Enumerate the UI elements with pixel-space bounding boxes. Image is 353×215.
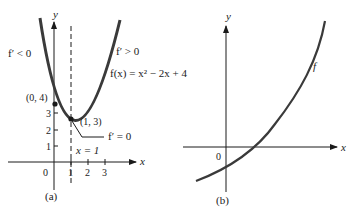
x-tick-2: 2 bbox=[85, 167, 90, 178]
caption-a: (a) bbox=[45, 190, 58, 203]
line-label: x = 1 bbox=[75, 144, 99, 156]
origin-b: 0 bbox=[216, 151, 221, 162]
curve-label-b: f bbox=[313, 60, 318, 72]
vertex-label: (1, 3) bbox=[80, 116, 102, 128]
y-tick-3: 3 bbox=[46, 108, 51, 119]
function-label: f(x) = x² − 2x + 4 bbox=[110, 67, 187, 80]
intercept-label: (0, 4) bbox=[26, 92, 48, 104]
x-label-b: x bbox=[340, 141, 346, 153]
y-label-a: y bbox=[52, 8, 58, 20]
y-label-b: y bbox=[225, 10, 231, 22]
figure: y x f′ < 0 f′ > 0 f(x) = x² − 2x + 4 (0,… bbox=[0, 0, 353, 215]
y-tick-2: 2 bbox=[46, 125, 51, 136]
origin-a: 0 bbox=[43, 167, 48, 178]
x-label-a: x bbox=[139, 155, 145, 167]
labels-layer: y x f′ < 0 f′ > 0 f(x) = x² − 2x + 4 (0,… bbox=[0, 0, 353, 215]
y-tick-1: 1 bbox=[46, 141, 51, 152]
x-tick-1: 1 bbox=[68, 167, 73, 178]
caption-b: (b) bbox=[216, 194, 229, 207]
left-derivative-label: f′ < 0 bbox=[8, 47, 32, 59]
right-derivative-label: f′ > 0 bbox=[116, 45, 140, 57]
x-tick-3: 3 bbox=[102, 167, 107, 178]
vertex-annotation: f′ = 0 bbox=[108, 130, 132, 142]
